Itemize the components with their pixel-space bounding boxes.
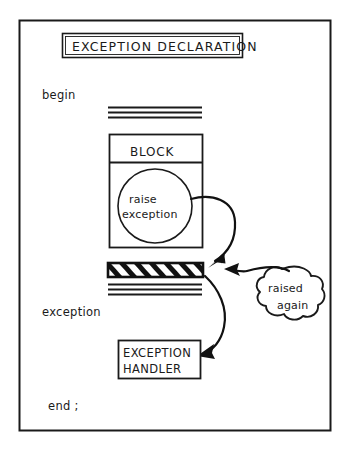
block-label: BLOCK: [130, 145, 175, 159]
keyword-begin: begin: [42, 88, 76, 102]
raise-exception-circle: [118, 169, 192, 243]
exception-handler-line2: HANDLER: [123, 362, 181, 376]
exception-handler-line1: EXCEPTION: [123, 346, 191, 360]
raise-exception-line1: raise: [129, 193, 157, 206]
raised-again-line1: raised: [268, 282, 303, 295]
diagram-svg: EXCEPTION DECLARATION begin BLOCK raise …: [0, 0, 350, 453]
keyword-exception: exception: [42, 305, 101, 319]
title-label: EXCEPTION DECLARATION: [72, 39, 258, 54]
keyword-end: end ;: [48, 399, 79, 413]
raised-again-line2: again: [277, 299, 309, 312]
diagram-canvas: EXCEPTION DECLARATION begin BLOCK raise …: [0, 0, 350, 453]
raise-exception-line2: exception: [122, 208, 178, 221]
hatched-bar: [108, 263, 203, 277]
